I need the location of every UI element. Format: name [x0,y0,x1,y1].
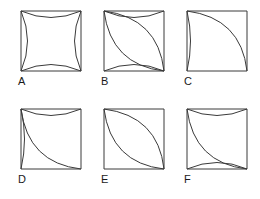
bottom-inward-arc [21,65,81,72]
figure-f-drawing [186,108,248,170]
left-outward-arc [187,11,191,71]
figure-cell-e: E [103,108,165,170]
figure-label-c: C [184,76,192,87]
figure-b-drawing [103,10,165,72]
figure-label-a: A [18,76,25,87]
figure-e-drawing [103,108,165,170]
diagonal-arc-lower [21,109,81,169]
figure-label-f: F [184,174,191,185]
figure-cell-b: B [103,10,165,72]
figure-cell-d: D [20,108,82,170]
figure-d-drawing [20,108,82,170]
figure-label-e: E [101,174,108,185]
top-inward-arc [104,11,164,18]
top-inward-arc [21,109,81,116]
diagonal-arc-upper [187,11,247,71]
figure-sheet: A B C [0,0,260,199]
figure-a-drawing [20,10,82,72]
figure-label-b: B [101,76,108,87]
figure-cell-c: C [186,10,248,72]
figure-label-d: D [18,174,26,185]
square-outline [21,11,81,71]
diagonal-arc-lower [187,109,247,169]
right-inward-arc [75,11,82,71]
left-inward-arc [21,11,28,71]
figure-cell-a: A [20,10,82,72]
top-inward-arc [187,109,247,116]
top-inward-arc [21,11,81,18]
figure-cell-f: F [186,108,248,170]
figure-c-drawing [186,10,248,72]
